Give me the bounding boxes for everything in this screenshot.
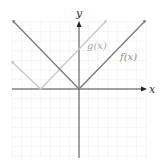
y-axis-label: y: [75, 7, 83, 20]
f-label: f(x): [119, 51, 137, 62]
series-g: [11, 20, 107, 89]
graph: y x g(x) f(x): [0, 0, 161, 168]
x-axis-label: x: [149, 83, 156, 96]
g-label: g(x): [87, 40, 107, 51]
